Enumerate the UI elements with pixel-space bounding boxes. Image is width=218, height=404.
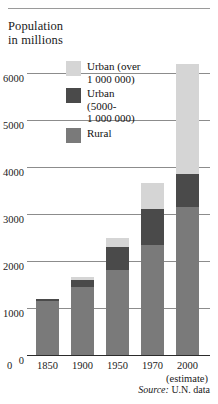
bar-segment-1850-0 — [36, 301, 59, 355]
x-axis-tick-1950: 1950 — [98, 360, 138, 371]
legend-swatch-icon-2 — [66, 128, 81, 143]
bar-segment-1970-1 — [141, 209, 164, 244]
bar-segment-1950-2 — [106, 238, 129, 247]
bar-segment-1900-0 — [71, 287, 94, 355]
bar-segment-1970-0 — [141, 245, 164, 355]
y-axis-tick-3000: 3000 — [3, 215, 24, 226]
y-axis-tick-6000: 6000 — [3, 74, 24, 85]
bar-1900[interactable]: 1900 — [71, 277, 94, 355]
legend-item-1: Urban (5000- 1 000 000) — [66, 87, 186, 125]
y-axis-tick-0: 0 — [19, 356, 24, 367]
source-note: Source: U.N. data — [138, 384, 210, 395]
estimate-note: (estimate) — [166, 373, 208, 384]
x-axis-tick-1850: 1850 — [28, 360, 68, 371]
legend-item-0: Urban (over 1 000 000) — [66, 60, 186, 85]
y-axis-tick-5000: 5000 — [3, 121, 24, 132]
x-axis-tick-1970: 1970 — [133, 360, 173, 371]
bar-segment-2000-0 — [176, 207, 199, 355]
bar-1970[interactable]: 1970 — [141, 183, 164, 355]
legend-item-2: Rural — [66, 127, 186, 143]
y-axis-tick-2000: 2000 — [3, 262, 24, 273]
chart-title: Population in millions — [8, 20, 63, 47]
bar-segment-1970-2 — [141, 183, 164, 209]
y-axis-tick-4000: 4000 — [3, 168, 24, 179]
legend-swatch-icon-0 — [66, 61, 81, 76]
x-axis-zero-label: 0 — [7, 360, 12, 371]
bar-1850[interactable]: 1850 — [36, 299, 59, 355]
bar-segment-2000-1 — [176, 174, 199, 207]
bar-segment-1950-0 — [106, 270, 129, 355]
bar-1950[interactable]: 1950 — [106, 238, 129, 355]
population-chart-figure: Population in millions 01000200030004000… — [0, 0, 218, 404]
bar-segment-1900-1 — [71, 280, 94, 287]
legend-label-1: Urban (5000- 1 000 000) — [87, 87, 135, 125]
bar-segment-1950-1 — [106, 247, 129, 271]
top-divider — [8, 8, 210, 9]
legend-label-0: Urban (over 1 000 000) — [87, 60, 140, 85]
source-label: Source: — [138, 384, 169, 395]
gridline-0: 0 — [27, 355, 210, 356]
chart-legend: Urban (over 1 000 000)Urban (5000- 1 000… — [66, 60, 186, 145]
y-axis-tick-1000: 1000 — [3, 309, 24, 320]
legend-swatch-icon-1 — [66, 88, 81, 103]
x-axis-tick-1900: 1900 — [63, 360, 103, 371]
source-value: U.N. data — [171, 384, 210, 395]
x-axis-tick-2000: 2000 — [168, 360, 208, 371]
legend-label-2: Rural — [87, 127, 111, 140]
